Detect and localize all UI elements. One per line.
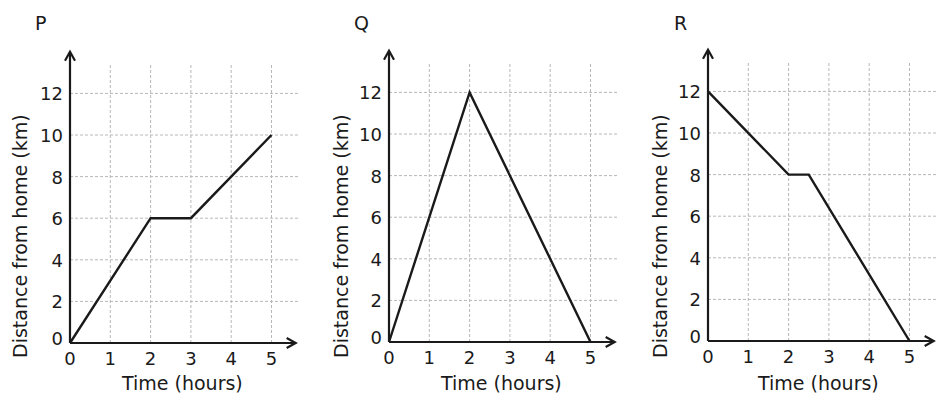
svg-text:5: 5: [266, 348, 277, 369]
svg-text:6: 6: [52, 208, 63, 229]
svg-text:2: 2: [690, 289, 701, 310]
grid: [389, 63, 619, 342]
axes: [384, 51, 615, 347]
svg-text:4: 4: [544, 347, 555, 368]
svg-text:3: 3: [823, 346, 834, 367]
tick-labels: 012345024681012: [678, 81, 915, 367]
svg-text:12: 12: [678, 81, 701, 102]
svg-text:5: 5: [904, 346, 915, 367]
grid: [708, 62, 937, 341]
svg-text:0: 0: [383, 347, 394, 368]
svg-text:4: 4: [225, 348, 236, 369]
svg-text:1: 1: [105, 348, 116, 369]
svg-text:6: 6: [371, 207, 382, 228]
chart-plot-p: 012345024681012: [0, 0, 312, 414]
data-line: [70, 135, 272, 343]
svg-text:12: 12: [40, 83, 63, 104]
svg-text:1: 1: [424, 347, 435, 368]
svg-text:0: 0: [371, 327, 382, 348]
svg-text:8: 8: [52, 167, 63, 188]
svg-text:0: 0: [52, 328, 63, 349]
svg-text:3: 3: [185, 348, 196, 369]
axes: [703, 50, 934, 346]
svg-text:2: 2: [371, 290, 382, 311]
grid: [70, 64, 300, 343]
svg-text:8: 8: [690, 165, 701, 186]
chart-panel-p: P Distance from home (km) Time (hours) 0…: [0, 0, 312, 414]
svg-text:4: 4: [690, 248, 701, 269]
svg-text:2: 2: [52, 291, 63, 312]
chart-plot-q: 012345024681012: [310, 0, 622, 414]
svg-text:2: 2: [145, 348, 156, 369]
svg-text:3: 3: [504, 347, 515, 368]
chart-plot-r: 012345024681012: [625, 0, 937, 414]
svg-text:0: 0: [64, 348, 75, 369]
svg-text:8: 8: [371, 166, 382, 187]
svg-text:4: 4: [863, 346, 874, 367]
svg-text:5: 5: [585, 347, 596, 368]
svg-text:6: 6: [690, 206, 701, 227]
svg-text:12: 12: [359, 82, 382, 103]
tick-labels: 012345024681012: [40, 83, 277, 369]
svg-text:10: 10: [359, 124, 382, 145]
axes: [65, 52, 296, 348]
svg-text:10: 10: [678, 123, 701, 144]
svg-text:0: 0: [702, 346, 713, 367]
chart-panel-q: Q Distance from home (km) Time (hours) 0…: [310, 0, 622, 414]
svg-text:0: 0: [690, 326, 701, 347]
svg-text:4: 4: [52, 250, 63, 271]
svg-text:1: 1: [743, 346, 754, 367]
svg-text:2: 2: [783, 346, 794, 367]
chart-panel-r: R Distance from home (km) Time (hours) 0…: [625, 0, 937, 414]
svg-text:10: 10: [40, 125, 63, 146]
svg-text:4: 4: [371, 249, 382, 270]
svg-text:2: 2: [464, 347, 475, 368]
